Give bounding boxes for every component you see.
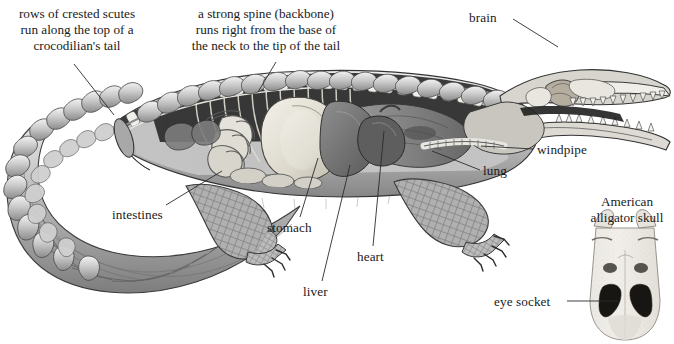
- label-lung: lung: [483, 163, 507, 178]
- label-stomach: stomach: [267, 220, 312, 235]
- inset-caption-line-2: alligator skull: [591, 210, 664, 226]
- caption-spine-line-1: a strong spine (backbone): [192, 6, 340, 22]
- caption-spine-line-3: the neck to the tip of the tail: [192, 38, 340, 54]
- label-brain: brain: [469, 10, 497, 25]
- caption-scutes-line-3: crocodilian's tail: [19, 38, 135, 54]
- caption-scutes: rows of crested scutes run along the top…: [19, 6, 135, 55]
- supratemporal-fenestra-left: [603, 263, 617, 273]
- caption-scutes-line-1: rows of crested scutes: [19, 6, 135, 22]
- caption-spine-line-2: runs right from the base of: [192, 22, 340, 38]
- caption-spine: a strong spine (backbone) runs right fro…: [192, 6, 340, 55]
- alligator-skull-inset: [586, 210, 666, 344]
- label-intestines: intestines: [112, 207, 163, 222]
- label-eye-socket: eye socket: [494, 294, 550, 309]
- inset-caption-american-alligator-skull: American alligator skull: [591, 194, 664, 226]
- inset-caption-line-1: American: [591, 194, 664, 210]
- front-leg: [394, 179, 509, 271]
- label-liver: liver: [303, 284, 328, 299]
- label-heart: heart: [357, 249, 384, 264]
- label-windpipe: windpipe: [537, 142, 587, 157]
- supratemporal-fenestra-right: [634, 263, 648, 273]
- leader-brain: [513, 19, 558, 47]
- caption-scutes-line-2: run along the top of a: [19, 22, 135, 38]
- anatomy-diagram-page: rows of crested scutes run along the top…: [0, 0, 674, 344]
